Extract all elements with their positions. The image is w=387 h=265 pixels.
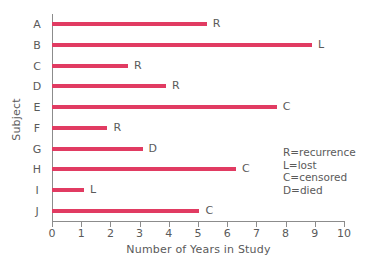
x-axis-title: Number of Years in Study	[52, 243, 345, 256]
legend-entry-censored: C=censored	[283, 171, 356, 184]
x-tick-label-0: 0	[37, 227, 67, 240]
bar-subject-c	[52, 64, 128, 68]
bar-subject-a	[52, 22, 207, 26]
bar-subject-d	[52, 84, 166, 88]
y-category-label-j: J	[28, 204, 46, 217]
x-tick-label-2: 2	[95, 227, 125, 240]
bar-end-label-b: L	[318, 38, 324, 51]
x-tick-label-1: 1	[66, 227, 96, 240]
y-category-label-a: A	[28, 18, 46, 31]
bar-end-label-a: R	[213, 17, 221, 30]
bar-subject-f	[52, 126, 107, 130]
x-tick-label-7: 7	[241, 227, 271, 240]
y-axis-title: Subject	[10, 65, 23, 175]
legend-entry-recurrence: R=recurrence	[283, 146, 356, 159]
bar-end-label-j: C	[205, 203, 213, 216]
y-category-label-b: B	[28, 39, 46, 52]
bar-subject-e	[52, 105, 277, 109]
survival-study-chart: Subject RLRRCRDCLC ABCDEFGHIJ 0123456789…	[0, 0, 387, 265]
bar-subject-g	[52, 147, 143, 151]
bar-end-label-i: L	[90, 182, 96, 195]
bar-subject-b	[52, 43, 312, 47]
bar-end-label-c: R	[134, 58, 142, 71]
x-tick-label-4: 4	[154, 227, 184, 240]
legend-entry-died: D=died	[283, 184, 356, 197]
y-category-label-e: E	[28, 101, 46, 114]
legend-entry-lost: L=lost	[283, 159, 356, 172]
bar-end-label-h: C	[242, 162, 250, 175]
bar-subject-h	[52, 167, 236, 171]
legend: R=recurrence L=lost C=censored D=died	[283, 146, 356, 196]
y-category-label-f: F	[28, 121, 46, 134]
x-tick-label-8: 8	[271, 227, 301, 240]
x-tick-label-6: 6	[212, 227, 242, 240]
y-category-label-d: D	[28, 80, 46, 93]
y-category-label-c: C	[28, 59, 46, 72]
y-category-label-i: I	[28, 183, 46, 196]
y-category-label-h: H	[28, 163, 46, 176]
x-tick-label-9: 9	[300, 227, 330, 240]
bar-subject-j	[52, 209, 199, 213]
x-tick-label-5: 5	[183, 227, 213, 240]
x-tick-label-10: 10	[329, 227, 359, 240]
bar-end-label-f: R	[113, 120, 121, 133]
bar-end-label-e: C	[283, 100, 291, 113]
bar-end-label-d: R	[172, 79, 180, 92]
y-category-label-g: G	[28, 142, 46, 155]
bar-subject-i	[52, 188, 84, 192]
x-tick-label-3: 3	[125, 227, 155, 240]
bar-end-label-g: D	[149, 141, 157, 154]
